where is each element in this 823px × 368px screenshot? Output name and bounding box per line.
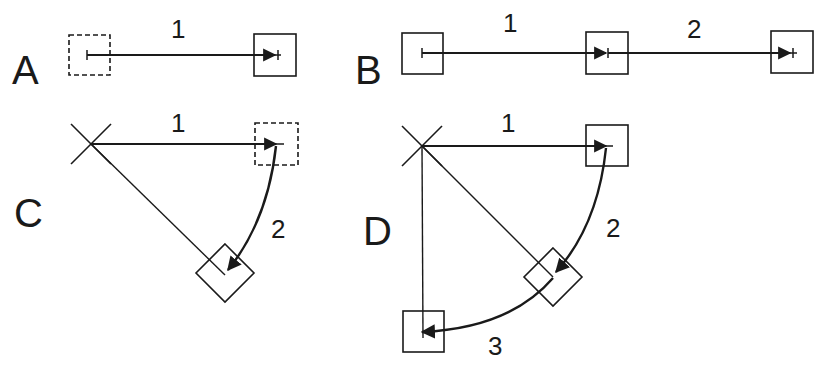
step-label-a-1: 1 [171, 16, 185, 42]
step-label-d-1: 1 [501, 110, 515, 136]
step-label-b-1: 1 [503, 10, 517, 36]
vertical-radius-line [422, 146, 423, 338]
step-label-d-2: 2 [606, 215, 620, 241]
diagram-canvas [0, 0, 823, 368]
step-label-d-3: 3 [488, 333, 502, 359]
step-label-b-2: 2 [687, 16, 701, 42]
radius-line [422, 146, 553, 277]
radius-line [91, 144, 225, 275]
panel-label-a: A [12, 50, 39, 90]
panel-label-d: D [363, 211, 392, 251]
panel-b [402, 31, 813, 74]
rotated-box [196, 244, 254, 302]
step-label-c-1: 1 [171, 110, 185, 136]
panel-d [402, 125, 628, 352]
panel-label-c: C [14, 193, 43, 233]
panel-c [71, 123, 298, 302]
panel-label-b: B [355, 50, 382, 90]
step-label-c-2: 2 [271, 216, 285, 242]
